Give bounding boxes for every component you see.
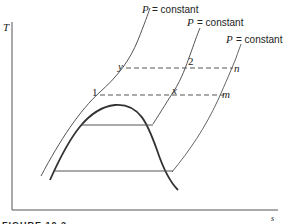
- svg-text:= constant: = constant: [236, 34, 283, 45]
- point-x-label: x: [171, 84, 177, 96]
- point-n-label: n: [234, 62, 240, 74]
- s-axis-label: s: [271, 214, 274, 223]
- point-m-label: m: [222, 88, 230, 100]
- isobar-3: [172, 44, 241, 172]
- figure-caption: FIGURE 10.2: [2, 220, 67, 224]
- ts-diagram: T s P = constant P = constant P = consta…: [0, 0, 297, 224]
- isobar-3-label: P = constant: [225, 33, 283, 45]
- point-y-label: y: [117, 60, 123, 72]
- svg-text:P: P: [225, 33, 233, 45]
- svg-text:P: P: [141, 3, 149, 15]
- saturation-dome: [50, 105, 178, 190]
- svg-text:= constant: = constant: [197, 17, 244, 28]
- point-2-label: 2: [188, 55, 194, 67]
- svg-text:P: P: [186, 16, 194, 28]
- point-1-label: 1: [92, 86, 98, 98]
- isobar-2: [153, 28, 200, 124]
- svg-text:= constant: = constant: [152, 4, 199, 15]
- isobar-2-label: P = constant: [186, 16, 244, 28]
- t-axis-label: T: [3, 21, 10, 33]
